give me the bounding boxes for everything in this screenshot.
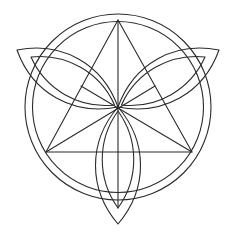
triquetra-diagram	[0, 0, 235, 243]
